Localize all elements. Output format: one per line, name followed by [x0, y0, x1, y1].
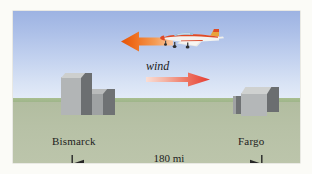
figure-canvas: wind Bismarck Fargo — [0, 0, 312, 174]
fargo-buildings — [233, 85, 289, 117]
distance-label: 180 mi — [143, 152, 195, 163]
bismarck-buildings — [59, 67, 131, 115]
building-front-face — [233, 96, 236, 114]
tower-front-face — [241, 93, 267, 116]
tower-top-face — [241, 87, 271, 94]
tower-top-face — [61, 73, 85, 78]
tower-side-face — [81, 73, 92, 115]
city-label-fargo: Fargo — [238, 135, 264, 147]
tower-front-face — [61, 77, 81, 115]
city-label-bismarck: Bismarck — [52, 135, 96, 147]
wind-arrow — [146, 72, 210, 87]
building-side-face — [103, 89, 115, 115]
airplane — [157, 28, 225, 52]
illustration-plate: wind Bismarck Fargo — [13, 11, 300, 163]
distance-dimension: 180 mi — [71, 154, 263, 163]
